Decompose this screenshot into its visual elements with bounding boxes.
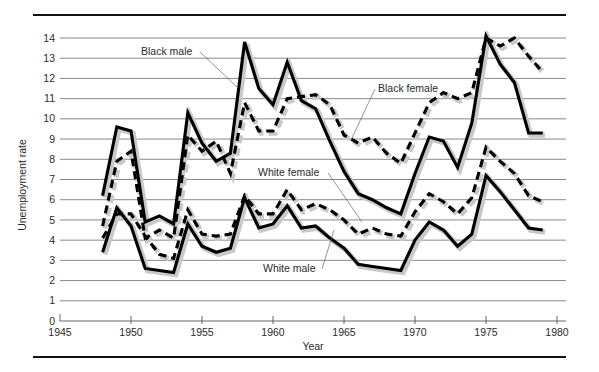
y-tick-label: 12 <box>43 72 55 84</box>
annotation-label-white-female: White female <box>258 166 319 178</box>
x-tick-label: 1980 <box>545 326 569 338</box>
annotation-label-white-male: White male <box>263 262 316 274</box>
series-lines-group <box>103 36 543 273</box>
y-tick-label: 4 <box>49 234 55 246</box>
y-tick-label: 10 <box>43 112 55 124</box>
x-tick-label: 1945 <box>48 326 72 338</box>
y-axis-label: Unemployment rate <box>16 139 28 231</box>
series-line-white-female <box>103 147 543 258</box>
x-tick-label: 1965 <box>332 326 356 338</box>
y-tick-label: 9 <box>49 133 55 145</box>
x-tick-labels-group: 19451950195519601965197019751980 <box>48 326 569 338</box>
y-tick-label: 14 <box>43 32 55 44</box>
unemployment-rate-line-chart: 01234567891011121314 1945195019551960196… <box>0 0 599 372</box>
y-tick-label: 7 <box>49 173 55 185</box>
x-axis-label: Year <box>302 340 324 352</box>
annotation-label-black-male: Black male <box>141 45 193 57</box>
leader-line <box>200 52 238 88</box>
y-tick-label: 13 <box>43 52 55 64</box>
y-tick-labels-group: 01234567891011121314 <box>43 32 55 327</box>
leader-line <box>351 89 375 140</box>
y-tick-label: 3 <box>49 254 55 266</box>
y-tick-label: 11 <box>44 92 55 104</box>
y-tick-label: 5 <box>49 214 55 226</box>
y-tick-label: 6 <box>49 193 55 205</box>
y-tick-label: 2 <box>49 274 55 286</box>
y-tick-label: 0 <box>49 315 55 327</box>
x-tick-label: 1970 <box>403 326 427 338</box>
x-tick-label: 1955 <box>190 326 214 338</box>
x-tick-label: 1975 <box>474 326 498 338</box>
x-tick-label: 1960 <box>261 326 285 338</box>
series-line-black-male <box>103 36 543 224</box>
x-axis-group <box>60 314 566 324</box>
y-tick-label: 8 <box>49 153 55 165</box>
figure-container: 01234567891011121314 1945195019551960196… <box>0 0 599 372</box>
annotation-label-black-female: Black female <box>378 82 438 94</box>
x-tick-label: 1950 <box>119 326 143 338</box>
y-tick-label: 1 <box>49 294 55 306</box>
